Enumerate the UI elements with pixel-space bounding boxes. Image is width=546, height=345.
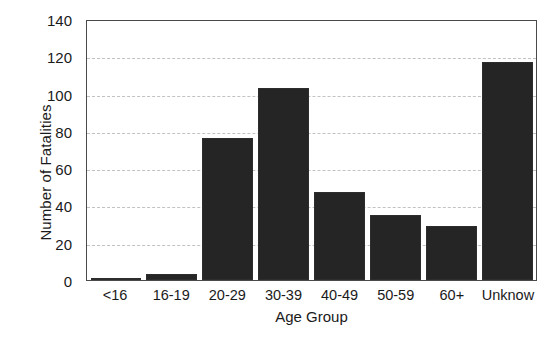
bar xyxy=(370,215,421,280)
bar xyxy=(91,278,142,280)
bar xyxy=(482,62,533,280)
x-tick-label: 20-29 xyxy=(199,283,255,309)
bar xyxy=(146,274,197,280)
bar-series xyxy=(87,21,536,280)
x-tick-label: Unknow xyxy=(480,283,536,309)
bar-slot xyxy=(423,21,479,280)
bar xyxy=(202,138,253,280)
bar-chart-figure: Number of Fatalities 020406080100120140 … xyxy=(0,0,546,345)
plot-area xyxy=(86,20,537,281)
bar-slot xyxy=(479,21,535,280)
x-axis-title: Age Group xyxy=(86,308,537,325)
y-tick-label: 140 xyxy=(47,12,72,29)
bar-slot xyxy=(367,21,423,280)
y-axis-tick-labels: 020406080100120140 xyxy=(0,0,80,345)
y-tick-label: 60 xyxy=(55,161,72,178)
y-tick-label: 0 xyxy=(64,273,72,290)
bar-slot xyxy=(88,21,144,280)
bar-slot xyxy=(312,21,368,280)
x-tick-label: 40-49 xyxy=(312,283,368,309)
bar xyxy=(314,192,365,280)
y-tick-label: 20 xyxy=(55,235,72,252)
y-tick-label: 120 xyxy=(47,49,72,66)
bar xyxy=(426,226,477,280)
bar-slot xyxy=(144,21,200,280)
y-tick-label: 80 xyxy=(55,123,72,140)
x-tick-label: <16 xyxy=(87,283,143,309)
bar xyxy=(258,88,309,280)
x-tick-label: 50-59 xyxy=(368,283,424,309)
y-tick-label: 100 xyxy=(47,86,72,103)
bar-slot xyxy=(200,21,256,280)
bar-slot xyxy=(256,21,312,280)
x-tick-label: 30-39 xyxy=(255,283,311,309)
y-tick-label: 40 xyxy=(55,198,72,215)
x-tick-label: 60+ xyxy=(424,283,480,309)
x-axis-tick-labels: <1616-1920-2930-3940-4950-5960+Unknow xyxy=(86,283,537,309)
x-tick-label: 16-19 xyxy=(143,283,199,309)
